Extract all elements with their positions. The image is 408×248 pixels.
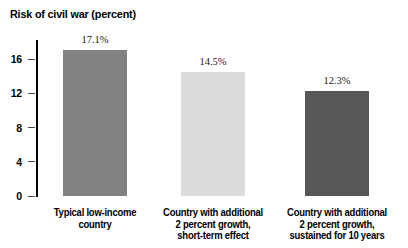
y-axis-tick-label: 12 <box>0 87 22 99</box>
y-axis-line <box>36 40 38 197</box>
bar-category-line: 2 percent growth, <box>279 219 394 231</box>
bar-category-line: sustained for 10 years <box>279 230 394 242</box>
bar-category-line: Country with additional <box>279 207 394 219</box>
plot-area: 0481216 17.1%Typical low-incomecountry14… <box>0 0 408 248</box>
bar-category-label-3: Country with additional2 percent growth,… <box>279 207 394 242</box>
bar-category-line: country <box>37 219 152 231</box>
bar-1 <box>63 50 127 196</box>
bar-category-label-1: Typical low-incomecountry <box>37 207 152 230</box>
y-axis-tick-mark <box>28 93 35 94</box>
civil-war-risk-bar-chart: Risk of civil war (percent) 0481216 17.1… <box>0 0 408 248</box>
y-axis-tick-label: 0 <box>0 190 22 202</box>
bar-3 <box>305 91 369 196</box>
bar-value-label-1: 17.1% <box>55 34 135 45</box>
bar-value-label-2: 14.5% <box>173 56 253 67</box>
bar-category-line: 2 percent growth, <box>155 219 270 231</box>
y-axis-tick-label: 4 <box>0 156 22 168</box>
y-axis-tick-label: 8 <box>0 122 22 134</box>
bar-category-label-2: Country with additional2 percent growth,… <box>155 207 270 242</box>
bar-category-line: short-term effect <box>155 230 270 242</box>
bar-2 <box>181 72 245 196</box>
y-axis-tick-label: 16 <box>0 53 22 65</box>
bar-value-label-3: 12.3% <box>297 75 377 86</box>
y-axis-tick-mark <box>28 59 35 60</box>
y-axis-tick-mark <box>28 161 35 162</box>
y-axis-tick-mark <box>28 196 35 197</box>
bar-category-line: Country with additional <box>155 207 270 219</box>
bar-category-line: Typical low-income <box>37 207 152 219</box>
y-axis-tick-mark <box>28 127 35 128</box>
